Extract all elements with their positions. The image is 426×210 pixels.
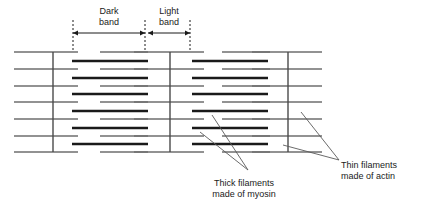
dark-band-label-line1: Dark (99, 6, 119, 16)
dark-band-arrow-head-left (73, 30, 78, 35)
thick-filament-leader-2 (200, 132, 248, 170)
band-arrows-layer (73, 30, 190, 35)
dark-band-label-line2: band (99, 17, 119, 27)
dark-band-arrow-head-right (140, 30, 145, 35)
light-band-arrow-head-left (148, 30, 153, 35)
thick-filaments-label-line1: Thick filaments (214, 178, 275, 188)
leader-lines-layer (200, 112, 339, 170)
thin-filaments-layer (14, 52, 322, 152)
light-band-label-line2: band (159, 17, 179, 27)
thick-filaments-label-line2: made of myosin (212, 189, 276, 199)
thin-filaments-label-line1: Thin filaments (341, 160, 398, 170)
light-band-arrow-head-right (185, 30, 190, 35)
sarcomere-diagram: Dark band Light band Thick filaments mad… (0, 0, 426, 210)
figure-canvas: Dark band Light band Thick filaments mad… (0, 0, 426, 210)
light-band-label-line1: Light (159, 6, 179, 16)
thick-filament-leader-1 (212, 115, 248, 170)
thin-filaments-label-line2: made of actin (341, 171, 395, 181)
